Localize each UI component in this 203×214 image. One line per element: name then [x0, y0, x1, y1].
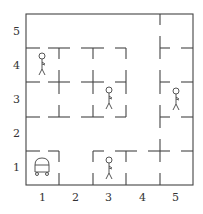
- y-label-1: 1: [13, 161, 20, 174]
- person-icon: [39, 53, 45, 75]
- gridworld-diagram: 5 4 3 2 1 1 2 3 4 5: [0, 0, 203, 214]
- x-axis-labels: 1 2 3 4 5: [39, 191, 179, 204]
- walls: [26, 14, 193, 185]
- person-icon: [173, 88, 179, 110]
- x-label-1: 1: [39, 191, 46, 204]
- y-label-3: 3: [13, 93, 20, 106]
- person-icon: [106, 157, 112, 179]
- y-label-2: 2: [13, 127, 20, 140]
- x-label-3: 3: [105, 191, 112, 204]
- outer-boundary: [26, 14, 193, 185]
- person-icon: [106, 87, 112, 109]
- y-label-5: 5: [13, 25, 20, 38]
- x-label-4: 4: [139, 191, 146, 204]
- robot-icon: [35, 158, 49, 176]
- x-label-2: 2: [72, 191, 79, 204]
- y-axis-labels: 5 4 3 2 1: [13, 25, 20, 174]
- y-label-4: 4: [13, 59, 20, 72]
- x-label-5: 5: [172, 191, 179, 204]
